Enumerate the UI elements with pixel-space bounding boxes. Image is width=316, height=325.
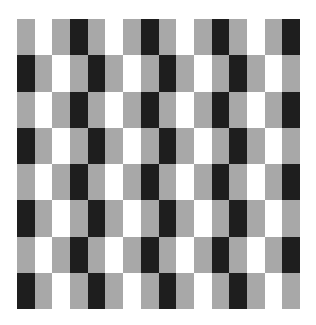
cell-black bbox=[70, 19, 88, 55]
cell-gray bbox=[70, 55, 88, 91]
cell-white bbox=[35, 19, 53, 55]
cell-white bbox=[123, 55, 141, 91]
cell-gray bbox=[52, 19, 70, 55]
cell-gray bbox=[105, 55, 123, 91]
cell-black bbox=[212, 164, 230, 200]
cell-white bbox=[247, 164, 265, 200]
cell-white bbox=[123, 200, 141, 236]
cell-gray bbox=[212, 200, 230, 236]
cell-gray bbox=[17, 237, 35, 273]
cell-gray bbox=[265, 164, 283, 200]
cell-white bbox=[52, 128, 70, 164]
cell-gray bbox=[247, 200, 265, 236]
cell-black bbox=[88, 200, 106, 236]
cell-white bbox=[194, 55, 212, 91]
cell-gray bbox=[159, 19, 177, 55]
cell-black bbox=[17, 55, 35, 91]
cell-gray bbox=[141, 128, 159, 164]
cell-gray bbox=[194, 237, 212, 273]
cell-black bbox=[212, 19, 230, 55]
cell-black bbox=[70, 92, 88, 128]
cell-gray bbox=[35, 273, 53, 309]
cell-gray bbox=[17, 19, 35, 55]
cell-black bbox=[141, 92, 159, 128]
cell-gray bbox=[176, 273, 194, 309]
cell-gray bbox=[88, 237, 106, 273]
cell-gray bbox=[229, 92, 247, 128]
cell-white bbox=[123, 273, 141, 309]
cell-gray bbox=[35, 55, 53, 91]
cell-gray bbox=[229, 164, 247, 200]
cell-white bbox=[176, 164, 194, 200]
cell-gray bbox=[141, 200, 159, 236]
cell-gray bbox=[123, 19, 141, 55]
cell-white bbox=[247, 237, 265, 273]
cell-black bbox=[88, 273, 106, 309]
cell-white bbox=[247, 19, 265, 55]
cell-white bbox=[247, 92, 265, 128]
cell-black bbox=[70, 237, 88, 273]
cell-gray bbox=[105, 128, 123, 164]
cell-gray bbox=[141, 55, 159, 91]
cell-gray bbox=[88, 92, 106, 128]
cell-gray bbox=[265, 19, 283, 55]
cell-black bbox=[229, 128, 247, 164]
cell-gray bbox=[282, 273, 300, 309]
cell-gray bbox=[194, 92, 212, 128]
cell-gray bbox=[35, 200, 53, 236]
cell-black bbox=[229, 200, 247, 236]
cell-gray bbox=[212, 273, 230, 309]
cell-white bbox=[176, 92, 194, 128]
cell-white bbox=[176, 237, 194, 273]
cell-gray bbox=[265, 237, 283, 273]
cell-gray bbox=[176, 128, 194, 164]
cell-black bbox=[229, 273, 247, 309]
cell-gray bbox=[229, 19, 247, 55]
cell-gray bbox=[194, 164, 212, 200]
cell-white bbox=[52, 200, 70, 236]
cell-white bbox=[265, 200, 283, 236]
cell-gray bbox=[212, 55, 230, 91]
cell-gray bbox=[159, 92, 177, 128]
cell-gray bbox=[282, 55, 300, 91]
cell-gray bbox=[52, 92, 70, 128]
cell-white bbox=[176, 19, 194, 55]
cell-gray bbox=[282, 200, 300, 236]
cell-white bbox=[52, 273, 70, 309]
cell-gray bbox=[229, 237, 247, 273]
cell-white bbox=[265, 55, 283, 91]
cell-black bbox=[70, 164, 88, 200]
cell-black bbox=[141, 164, 159, 200]
cell-black bbox=[282, 92, 300, 128]
cell-gray bbox=[52, 164, 70, 200]
cell-gray bbox=[105, 200, 123, 236]
cell-black bbox=[282, 164, 300, 200]
cell-black bbox=[159, 273, 177, 309]
cell-white bbox=[194, 273, 212, 309]
cell-gray bbox=[282, 128, 300, 164]
cell-white bbox=[105, 237, 123, 273]
cell-gray bbox=[247, 273, 265, 309]
cell-gray bbox=[194, 19, 212, 55]
cell-gray bbox=[17, 164, 35, 200]
cell-gray bbox=[70, 273, 88, 309]
cell-gray bbox=[17, 92, 35, 128]
cell-white bbox=[105, 164, 123, 200]
cell-black bbox=[88, 128, 106, 164]
cell-white bbox=[123, 128, 141, 164]
cell-white bbox=[194, 128, 212, 164]
cell-gray bbox=[123, 92, 141, 128]
cell-black bbox=[17, 200, 35, 236]
cell-gray bbox=[70, 128, 88, 164]
cell-gray bbox=[52, 237, 70, 273]
cell-gray bbox=[159, 237, 177, 273]
cell-gray bbox=[159, 164, 177, 200]
cell-black bbox=[282, 19, 300, 55]
cell-black bbox=[141, 237, 159, 273]
cell-gray bbox=[176, 55, 194, 91]
cell-gray bbox=[247, 128, 265, 164]
cell-gray bbox=[212, 128, 230, 164]
cell-white bbox=[35, 92, 53, 128]
cell-black bbox=[212, 92, 230, 128]
cell-black bbox=[88, 55, 106, 91]
